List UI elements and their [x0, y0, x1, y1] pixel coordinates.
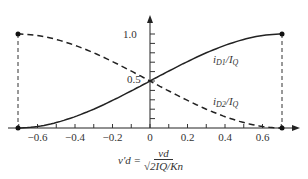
x-tick-label: 0.2 — [181, 131, 195, 143]
y-tick-label-1: 1.0 — [123, 28, 137, 40]
formula-lhs: v′d = — [118, 154, 141, 166]
formula-numerator: vd — [154, 147, 172, 160]
x-tick-label: −0.4 — [65, 131, 85, 143]
x-axis-arrow-icon — [292, 125, 300, 131]
y-axis-arrow-icon — [147, 15, 153, 23]
endpoint-marker — [16, 126, 21, 131]
x-tick-label: 0 — [147, 131, 153, 143]
endpoint-marker — [16, 32, 21, 37]
formula-fraction: vd √2IQ/Kn — [144, 147, 183, 173]
x-tick-labels: −0.6−0.4−0.200.20.40.6 — [28, 131, 270, 143]
curve-label-id2: iD2/IQ — [213, 95, 239, 109]
curve-label-id1: iD1/IQ — [213, 53, 239, 67]
x-tick-label: 0.4 — [218, 131, 232, 143]
x-ticks — [19, 124, 282, 128]
endpoint-marker — [280, 32, 285, 37]
endpoint-marker — [280, 126, 285, 131]
x-tick-label: −0.2 — [103, 131, 123, 143]
x-axis-formula: v′d = vd √2IQ/Kn — [118, 147, 183, 173]
x-tick-label: 0.6 — [256, 131, 270, 143]
x-tick-label: −0.6 — [28, 131, 48, 143]
formula-denominator: √2IQ/Kn — [144, 160, 183, 173]
y-tick-label-05: 0.5 — [127, 73, 141, 85]
y-ticks — [150, 34, 155, 119]
